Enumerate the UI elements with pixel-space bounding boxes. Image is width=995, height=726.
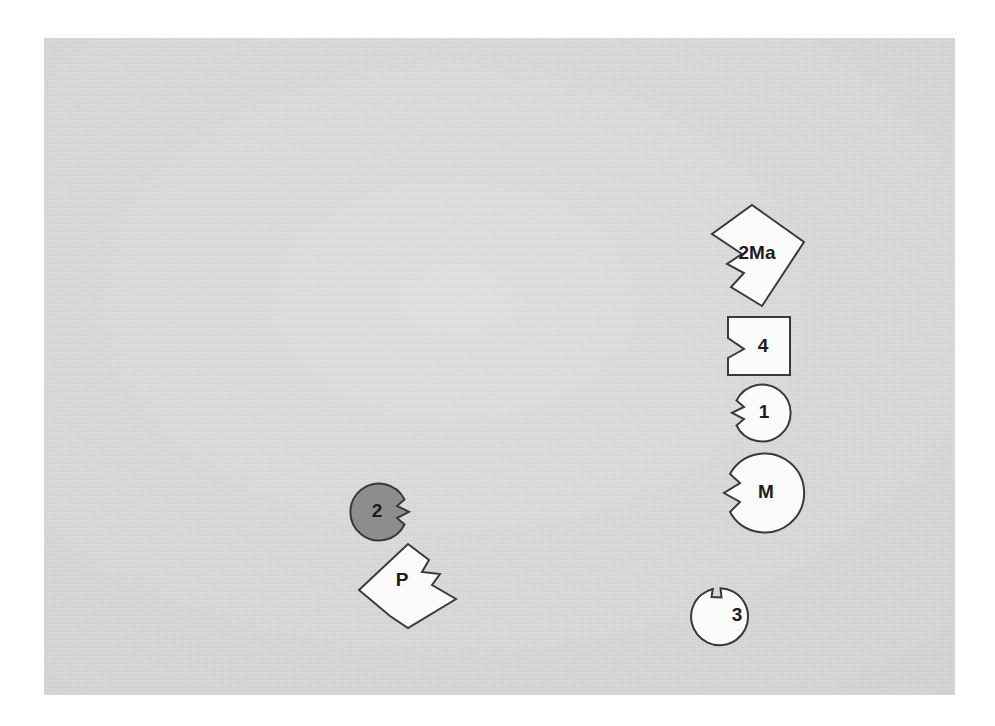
figure-root: 2Ma 4 1 M 3 2 P — [0, 0, 995, 726]
shape-m[interactable]: M — [716, 448, 806, 538]
shape-p[interactable]: P — [352, 533, 467, 638]
shape-3[interactable]: 3 — [701, 578, 769, 646]
shape-3-label: 3 — [732, 604, 743, 625]
shape-1[interactable]: 1 — [726, 379, 794, 447]
shape-4[interactable]: 4 — [722, 311, 797, 381]
shape-p-label: P — [396, 569, 409, 590]
shape-2ma-label: 2Ma — [739, 242, 776, 263]
shape-layer: 2Ma 4 1 M 3 2 P — [0, 0, 995, 726]
shape-2-label: 2 — [372, 500, 383, 521]
shape-2ma[interactable]: 2Ma — [700, 196, 815, 316]
shape-4-label: 4 — [758, 335, 769, 356]
shape-m-label: M — [758, 481, 774, 502]
shape-1-label: 1 — [759, 401, 770, 422]
